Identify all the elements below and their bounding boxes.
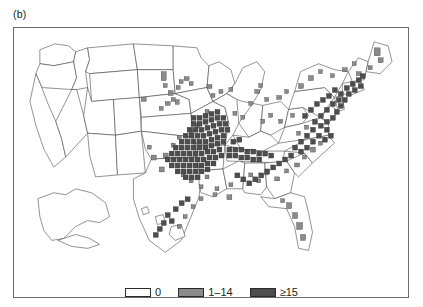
legend-swatch-zero xyxy=(125,288,151,297)
legend-label-low: 1–14 xyxy=(208,287,232,298)
map-frame xyxy=(13,27,409,298)
map-legend: 0 1–14 ≥15 xyxy=(0,287,423,298)
figure-panel: (b) xyxy=(0,0,423,307)
legend-label-high: ≥15 xyxy=(280,287,298,298)
panel-label: (b) xyxy=(13,8,26,20)
us-county-choropleth-map xyxy=(14,28,408,297)
legend-item-low: 1–14 xyxy=(178,287,232,298)
legend-item-zero: 0 xyxy=(125,287,161,298)
legend-label-zero: 0 xyxy=(155,287,161,298)
legend-item-high: ≥15 xyxy=(250,287,298,298)
legend-swatch-low xyxy=(178,288,204,297)
legend-swatch-high xyxy=(250,288,276,297)
